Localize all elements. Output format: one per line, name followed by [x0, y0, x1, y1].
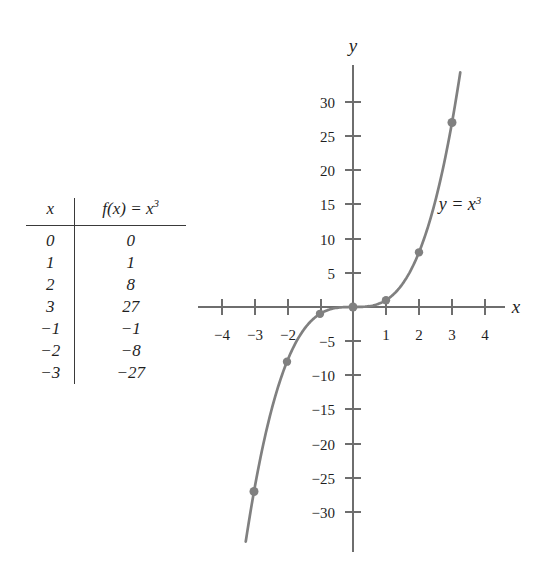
point--1--1	[316, 310, 324, 318]
cell-fx: 0	[75, 226, 186, 253]
point--2--8	[283, 357, 291, 365]
table-head: x f(x) = x3	[26, 198, 186, 226]
point-3-27	[448, 118, 457, 127]
table-row: 3 27	[26, 296, 186, 318]
x-tick-label--4: −4	[214, 327, 230, 343]
y-axis-label: y	[347, 35, 358, 56]
figure-page: x f(x) = x3 0 0 1 1 2 8 3	[0, 0, 547, 570]
cell-x: 2	[26, 274, 75, 296]
cubic-graph: −4 −3 −2 1 2 3 4 30 25 20 15 10 5 −5 −10…	[190, 20, 540, 565]
header-fx-text: f(x) = x	[102, 199, 153, 218]
cell-x: 3	[26, 296, 75, 318]
cell-x: 1	[26, 252, 75, 274]
table-row: 0 0	[26, 226, 186, 253]
table-row: −3 −27	[26, 362, 186, 384]
cell-x: −1	[26, 318, 75, 340]
y-tick-label--25: −25	[312, 471, 335, 487]
y-tick-label-5: 5	[328, 266, 336, 282]
point-0-0	[349, 303, 358, 312]
x-tick-label--2: −2	[280, 327, 296, 343]
values-table: x f(x) = x3 0 0 1 1 2 8 3	[26, 198, 186, 384]
cell-x: −2	[26, 340, 75, 362]
y-tick-label-15: 15	[320, 197, 335, 213]
x-tick-label-1: 1	[382, 327, 390, 343]
y-tick-label--10: −10	[312, 368, 335, 384]
y-tick-label-25: 25	[320, 129, 335, 145]
x-tick-label-4: 4	[481, 327, 489, 343]
y-tick-label-10: 10	[320, 232, 335, 248]
point-2-8	[415, 248, 423, 256]
cell-fx: 8	[75, 274, 186, 296]
cell-fx: 1	[75, 252, 186, 274]
curve-equation-text: y = x	[437, 194, 476, 214]
y-tick-label--20: −20	[312, 437, 335, 453]
point--3--27	[250, 487, 259, 496]
x-tick-label--3: −3	[247, 327, 263, 343]
header-fx: f(x) = x3	[75, 198, 186, 226]
x-tick-label-3: 3	[448, 327, 456, 343]
y-tick-label-20: 20	[320, 163, 335, 179]
header-fx-exponent: 3	[153, 197, 159, 209]
table-row: 2 8	[26, 274, 186, 296]
cell-x: −3	[26, 362, 75, 384]
x-tick-label-2: 2	[415, 327, 423, 343]
y-tick-label--30: −30	[312, 505, 335, 521]
y-tick-label--5: −5	[319, 334, 335, 350]
table-row: 1 1	[26, 252, 186, 274]
curve-equation-label: y = x3	[437, 194, 482, 214]
cell-fx: −8	[75, 340, 186, 362]
table-row: −1 −1	[26, 318, 186, 340]
cell-x: 0	[26, 226, 75, 253]
x-axis-label: x	[511, 296, 521, 317]
table-header-row: x f(x) = x3	[26, 198, 186, 226]
point-1-1	[382, 296, 390, 304]
y-tick-label-30: 30	[320, 95, 335, 111]
y-tick-label--15: −15	[312, 402, 335, 418]
cell-fx: −27	[75, 362, 186, 384]
table-row: −2 −8	[26, 340, 186, 362]
table-of-values: x f(x) = x3 0 0 1 1 2 8 3	[26, 198, 186, 384]
cell-fx: 27	[75, 296, 186, 318]
cell-fx: −1	[75, 318, 186, 340]
header-x: x	[26, 198, 75, 226]
table-body: 0 0 1 1 2 8 3 27 −1 −1	[26, 226, 186, 385]
curve-equation-exponent: 3	[475, 194, 482, 206]
